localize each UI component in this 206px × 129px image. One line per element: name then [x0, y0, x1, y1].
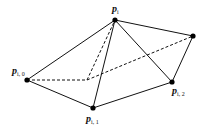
vertex-label-p_i0: pi, 0 [11, 65, 25, 77]
vertex-label-p_i2: pi, 2 [171, 85, 185, 97]
edge [93, 82, 172, 108]
vertex-label-p_i1: pi, 1 [85, 113, 99, 125]
vertex-p_i1 [90, 105, 95, 110]
diagram-svg: pipi, 0pi, 1pi, 2 [0, 0, 206, 129]
polyhedron-diagram: pipi, 0pi, 1pi, 2 [0, 0, 206, 129]
edge [115, 20, 172, 82]
hidden-edge [87, 36, 193, 80]
edge [27, 80, 93, 108]
edge [115, 20, 193, 36]
vertex-label-p_i: pi [111, 3, 119, 15]
vertex-p_i [112, 17, 117, 22]
vertex-top_right [190, 33, 195, 38]
vertex-p_i2 [169, 79, 174, 84]
vertex-p_i0 [24, 77, 29, 82]
